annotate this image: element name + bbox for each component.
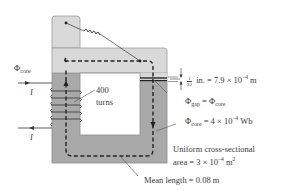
phi-core-label: Φcore: [14, 64, 31, 74]
gap-length-label: 132 in. = 7.9 × 10−4 m: [187, 75, 257, 87]
spring-anchor-top: [65, 22, 68, 25]
gap-dim-arrow-up-icon: [180, 81, 183, 85]
current-out-label: I: [30, 133, 33, 142]
area-label-line2: area = 3 × 10−4 m2: [173, 157, 235, 167]
spring-icon: [84, 29, 100, 35]
turns-unit: turns: [96, 98, 113, 107]
gap-dim-arrow-down-icon: [180, 75, 183, 79]
core-upper-band: [52, 48, 167, 73]
phi-gap-label: Φgap = Φcore: [185, 97, 225, 107]
current-in-arrow-icon: [25, 81, 30, 85]
current-out-arrow-icon: [29, 126, 34, 130]
area-label-line1: Uniform cross-sectional: [173, 145, 255, 154]
turns-count: 400: [96, 86, 109, 95]
core-top-tab: [52, 16, 80, 48]
current-in-label: I: [30, 88, 33, 97]
phi-core-value-label: Φcore = 4 × 10−4 Wb: [185, 116, 253, 127]
magnetic-core-diagram: [0, 0, 284, 191]
mean-length-label: Mean length = 0.08 m: [144, 176, 219, 185]
